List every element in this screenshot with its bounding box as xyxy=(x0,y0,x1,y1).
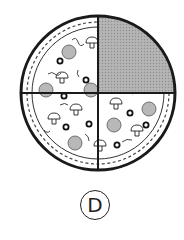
pepperoni-icon xyxy=(39,83,53,97)
pizza-fraction-diagram xyxy=(0,0,184,188)
pepperoni-icon xyxy=(107,118,121,132)
pepperoni-icon xyxy=(62,45,76,59)
pepperoni-icon xyxy=(68,136,82,150)
olive-icon xyxy=(63,124,68,129)
olive-icon xyxy=(83,77,88,82)
pepperoni-icon xyxy=(142,102,156,116)
olive-icon xyxy=(61,93,66,98)
pepperoni-icon xyxy=(84,83,98,97)
olive-icon xyxy=(127,110,132,115)
olive-icon xyxy=(57,58,62,63)
olive-icon xyxy=(86,121,91,126)
olive-icon xyxy=(114,142,119,147)
olive-icon xyxy=(143,122,148,127)
option-label-badge[interactable]: D xyxy=(80,190,110,220)
option-label-text: D xyxy=(87,195,102,215)
